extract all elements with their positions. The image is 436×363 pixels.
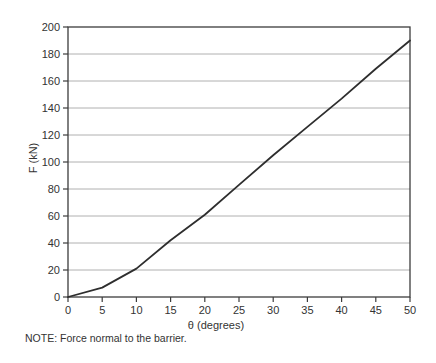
y-tick-label-20: 20 — [48, 264, 60, 276]
x-tick-label-25: 25 — [233, 304, 245, 316]
y-tick-label-60: 60 — [48, 210, 60, 222]
x-tick-label-0: 0 — [65, 304, 71, 316]
x-tick-label-15: 15 — [164, 304, 176, 316]
data-line-force-normal-to-barrier — [68, 41, 410, 298]
x-tick-label-35: 35 — [301, 304, 313, 316]
y-axis-title: F (kN) — [27, 108, 39, 208]
chart-canvas: 0204060801001201401601802000510152025303… — [0, 0, 436, 363]
y-tick-label-100: 100 — [42, 156, 60, 168]
chart-note: NOTE: Force normal to the barrier. — [25, 332, 187, 344]
y-tick-label-160: 160 — [42, 75, 60, 87]
x-tick-label-45: 45 — [370, 304, 382, 316]
y-tick-label-40: 40 — [48, 237, 60, 249]
y-tick-label-180: 180 — [42, 48, 60, 60]
x-tick-label-5: 5 — [99, 304, 105, 316]
y-tick-label-140: 140 — [42, 102, 60, 114]
y-tick-label-200: 200 — [42, 21, 60, 33]
x-tick-label-20: 20 — [199, 304, 211, 316]
y-tick-label-120: 120 — [42, 129, 60, 141]
x-tick-label-50: 50 — [404, 304, 416, 316]
y-tick-label-0: 0 — [54, 291, 60, 303]
x-axis-title: θ (degrees) — [156, 319, 276, 331]
y-tick-label-80: 80 — [48, 183, 60, 195]
x-tick-label-40: 40 — [335, 304, 347, 316]
x-tick-label-10: 10 — [130, 304, 142, 316]
x-tick-label-30: 30 — [267, 304, 279, 316]
force-vs-angle-figure: 0204060801001201401601802000510152025303… — [0, 0, 436, 363]
